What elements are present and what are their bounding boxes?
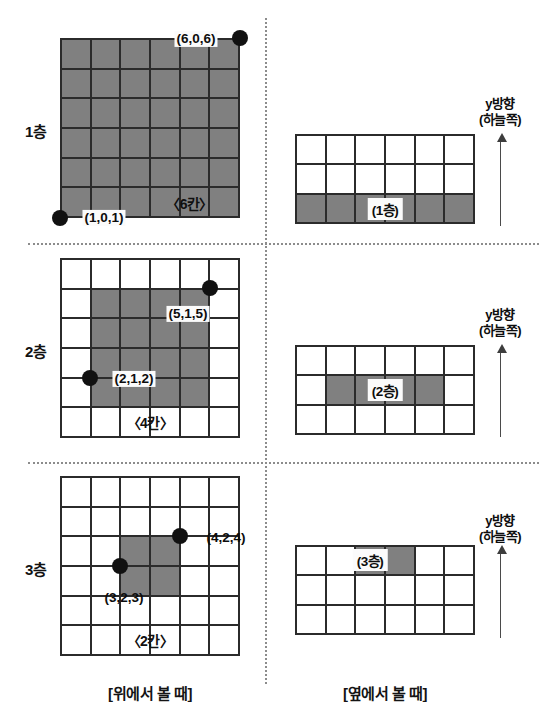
top-view-floor-1-cell [181,99,211,129]
top-view-floor-2-cell [181,319,211,349]
side-view-floor-2-cell [297,376,327,405]
top-view-floor-2-cell [92,349,122,379]
top-view-grid-floor-1 [60,38,240,218]
top-view-floor-3-cell [210,478,240,508]
side-view-floor-2-cell [327,406,357,435]
top-view-floor-3-cell [62,537,92,567]
side-view-floor-1-cell [386,165,416,194]
y-axis-label-line2: (하늘쪽) [479,529,521,544]
layer-label-floor-2: 2층 [25,340,46,361]
side-view-floor-3-cell [386,576,416,605]
top-view-floor-3-cell [181,537,211,567]
top-view-floor-1-cell [210,40,240,70]
side-view-floor-2-cell [356,406,386,435]
floor-tag-3: (3층) [353,549,388,571]
y-axis-arrow-3 [500,552,501,638]
y-axis-label-3: y방향 (하늘쪽) [479,513,521,546]
side-view-floor-2-cell [445,347,475,376]
side-view-floor-3-cell [327,576,357,605]
top-view-floor-1-cell [210,129,240,159]
top-view-floor-1-cell [151,70,181,100]
top-view-floor-2-cell [210,319,240,349]
top-view-floor-3-cell [92,597,122,627]
side-view-floor-1-cell [327,195,357,224]
side-view-floor-3-cell [416,547,446,576]
top-view-floor-2-cell [92,290,122,320]
top-view-floor-2-cell [151,408,181,438]
top-view-floor-3-cell [121,478,151,508]
top-view-floor-1-cell [151,159,181,189]
top-view-floor-3-cell [151,626,181,656]
top-view-floor-1-cell [181,129,211,159]
top-view-floor-3-cell [92,508,122,538]
side-view-floor-3-cell [416,606,446,635]
side-view-floor-2-cell [297,406,327,435]
top-view-floor-3-cell [151,508,181,538]
side-view-floor-1-cell [327,165,357,194]
side-view-floor-2-cell [297,347,327,376]
y-axis-label-line1: y방향 [485,513,515,528]
caption-side-view: [옆에서 볼 때] [343,682,427,703]
top-view-floor-2-cell [121,408,151,438]
top-view-floor-2-cell [210,290,240,320]
top-view-floor-2-cell [181,260,211,290]
y-axis-label-line1: y방향 [485,96,515,111]
top-view-floor-3-cell [181,597,211,627]
top-view-floor-2-cell [62,319,92,349]
top-view-floor-2-cell [62,349,92,379]
top-view-floor-1-cell [181,40,211,70]
side-view-floor-1-cell [356,165,386,194]
side-view-floor-3-cell [445,606,475,635]
top-view-floor-1-cell [92,70,122,100]
divider-views [265,18,267,684]
side-view-floor-2-cell [327,376,357,405]
side-view-floor-1-cell [416,136,446,165]
side-view-floor-2-cell [416,347,446,376]
top-view-floor-1-cell [181,70,211,100]
top-view-floor-1-cell [62,40,92,70]
top-view-floor-1-cell [210,70,240,100]
side-view-floor-3-cell [356,606,386,635]
top-view-floor-2-cell [151,349,181,379]
top-view-floor-2-cell [121,290,151,320]
top-view-floor-2-cell [92,260,122,290]
top-view-floor-3-cell [210,537,240,567]
top-view-floor-2-cell [151,319,181,349]
layer-label-floor-1: 1층 [25,120,46,141]
side-view-floor-2-cell [445,376,475,405]
side-view-floor-2-cell [416,406,446,435]
top-view-floor-3-cell [62,597,92,627]
side-view-floor-2-cell [386,406,416,435]
side-view-floor-1-cell [297,165,327,194]
top-view-floor-3-cell [62,626,92,656]
top-view-floor-3-cell [181,626,211,656]
top-view-floor-2-cell [151,260,181,290]
top-view-floor-2-cell [210,260,240,290]
side-view-floor-1-cell [416,195,446,224]
top-view-floor-1-cell [210,99,240,129]
top-view-floor-1-cell [151,99,181,129]
top-view-floor-2-cell [121,319,151,349]
side-view-floor-3-cell [327,606,357,635]
top-view-floor-1-cell [121,40,151,70]
top-view-floor-1-cell [62,99,92,129]
top-view-floor-2-cell [121,260,151,290]
top-view-floor-1-cell [62,70,92,100]
side-view-floor-3-cell [386,606,416,635]
top-view-floor-1-cell [210,188,240,218]
top-view-floor-3-cell [151,597,181,627]
top-view-floor-2-cell [181,349,211,379]
top-view-floor-2-cell [92,319,122,349]
side-view-floor-1-cell [327,136,357,165]
top-view-floor-1-cell [151,129,181,159]
top-view-floor-2-cell [181,379,211,409]
top-view-floor-1-cell [151,40,181,70]
side-view-floor-2-cell [386,347,416,376]
top-view-floor-1-cell [121,188,151,218]
side-view-floor-2-cell [356,347,386,376]
top-view-floor-3-cell [151,478,181,508]
side-view-floor-1-cell [445,165,475,194]
divider-layer-1-2 [28,243,539,245]
side-view-floor-2-cell [445,406,475,435]
top-view-floor-3-cell [92,567,122,597]
